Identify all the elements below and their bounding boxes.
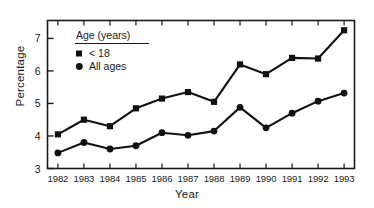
y-tick-label: 4 bbox=[35, 130, 41, 142]
legend-label-under-18: < 18 bbox=[89, 47, 110, 59]
data-point-square bbox=[341, 27, 347, 33]
data-point-square bbox=[289, 55, 295, 61]
x-tick-label: 1989 bbox=[230, 173, 251, 184]
x-tick-label: 1987 bbox=[178, 173, 199, 184]
legend-marker-circle-icon bbox=[76, 63, 83, 70]
x-tick-label: 1985 bbox=[126, 173, 147, 184]
data-point-circle bbox=[133, 142, 140, 149]
data-point-square bbox=[315, 55, 321, 61]
x-tick-label: 1984 bbox=[100, 173, 121, 184]
data-point-circle bbox=[263, 124, 270, 131]
line-chart: 34567 1982198319841985198619871988198919… bbox=[0, 0, 374, 208]
data-point-circle bbox=[159, 129, 166, 136]
data-point-square bbox=[55, 131, 61, 137]
y-tick-label: 6 bbox=[35, 65, 41, 77]
data-point-circle bbox=[289, 110, 296, 117]
data-point-square bbox=[133, 105, 139, 111]
data-point-square bbox=[263, 71, 269, 77]
data-point-square bbox=[81, 117, 87, 123]
legend-title: Age (years) bbox=[76, 29, 130, 41]
data-point-circle bbox=[341, 90, 348, 97]
x-tick-label: 1986 bbox=[152, 173, 173, 184]
x-tick-label: 1991 bbox=[282, 173, 303, 184]
legend-marker-square-icon bbox=[76, 51, 82, 57]
x-tick-label: 1988 bbox=[204, 173, 225, 184]
data-point-square bbox=[185, 89, 191, 95]
data-point-circle bbox=[81, 139, 88, 146]
data-point-circle bbox=[185, 132, 192, 139]
data-point-circle bbox=[107, 146, 114, 153]
x-tick-label: 1983 bbox=[74, 173, 95, 184]
x-tick-label: 1982 bbox=[48, 173, 69, 184]
data-point-square bbox=[107, 123, 113, 129]
x-tick-label: 1990 bbox=[256, 173, 277, 184]
x-tick-label: 1993 bbox=[334, 173, 355, 184]
y-tick-label: 3 bbox=[35, 163, 41, 175]
x-tick-label: 1992 bbox=[308, 173, 329, 184]
chart-plot-area: 34567 1982198319841985198619871988198919… bbox=[0, 0, 374, 208]
data-point-circle bbox=[237, 104, 244, 111]
data-point-square bbox=[211, 99, 217, 105]
data-point-square bbox=[159, 95, 165, 101]
data-point-circle bbox=[211, 128, 218, 135]
data-point-circle bbox=[315, 98, 322, 105]
y-tick-label: 7 bbox=[35, 32, 41, 44]
y-axis-title: Percentage bbox=[14, 28, 26, 124]
legend-label-all-ages: All ages bbox=[89, 60, 126, 72]
x-axis-title: Year bbox=[0, 188, 374, 200]
data-point-square bbox=[237, 61, 243, 67]
data-point-circle bbox=[55, 149, 62, 156]
y-tick-label: 5 bbox=[35, 97, 41, 109]
